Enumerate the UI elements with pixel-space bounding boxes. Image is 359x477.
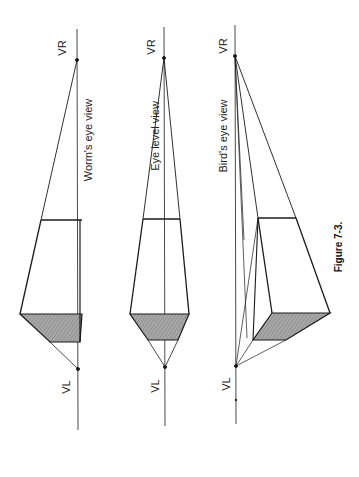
- panel-title-eye-level: Eye level view: [149, 101, 161, 171]
- vl-point: [235, 365, 238, 368]
- panel-birds-eye: [234, 25, 331, 424]
- perspective-diagram: VR VL Worm's eye view VR VL Eye level vi…: [0, 0, 359, 477]
- vr-label-2: VR: [145, 39, 157, 54]
- vl-label-1: VL: [60, 380, 72, 393]
- panel-worms-eye: [20, 29, 82, 430]
- vr-label-3: VR: [217, 38, 229, 53]
- shaded-face: [253, 313, 330, 340]
- figure-caption: Figure 7-3.: [333, 222, 344, 273]
- vr-label-1: VR: [56, 40, 68, 55]
- vl-point: [77, 368, 80, 371]
- panel-eye-level: [130, 27, 189, 426]
- shaded-face: [20, 314, 82, 342]
- vr-point: [234, 55, 237, 58]
- shaded-face: [130, 314, 189, 340]
- vr-point: [163, 57, 166, 60]
- vl-point: [164, 366, 167, 369]
- vl-label-2: VL: [149, 379, 161, 392]
- panel-title-birds-eye: Bird's eye view: [217, 99, 229, 172]
- vr-point: [76, 59, 79, 62]
- vl-label-3: VL: [220, 377, 232, 390]
- panel-title-worms-eye: Worm's eye view: [82, 99, 94, 182]
